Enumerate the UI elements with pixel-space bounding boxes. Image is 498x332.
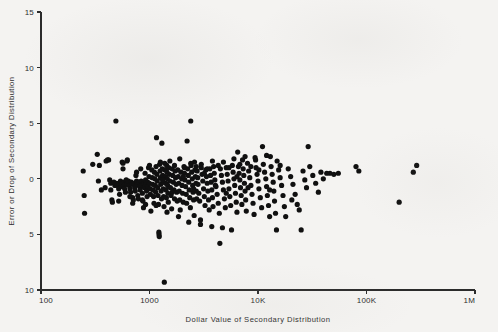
data-point [202,203,207,208]
data-point [96,178,101,183]
data-point [237,162,242,167]
data-point [127,194,132,199]
data-point [160,177,165,182]
data-point [181,174,186,179]
data-point [256,186,261,191]
data-point [254,172,259,177]
scatter-plot: 151050510100100010K100K1MDollar Value of… [0,0,498,332]
data-point [182,165,187,170]
data-point [261,162,266,167]
data-point [209,187,214,192]
data-point [280,193,285,198]
data-point [288,174,293,179]
data-point [138,166,143,171]
data-point [231,156,236,161]
data-point [316,190,321,195]
data-point [255,178,260,183]
data-point [205,166,210,171]
data-point [216,201,221,206]
data-point [90,162,95,167]
data-point [221,160,226,165]
data-point [310,173,315,178]
data-point [268,164,273,169]
data-point [397,200,402,205]
data-point [143,202,148,207]
data-point [108,187,113,192]
data-point [243,197,248,202]
y-tick-label: 10 [25,286,35,295]
data-point [219,173,224,178]
data-point [266,203,271,208]
data-point [116,198,121,203]
data-point [195,168,200,173]
data-point [313,181,318,186]
data-point [304,185,309,190]
data-point [117,192,122,197]
data-point [238,185,243,190]
data-point [178,207,183,212]
data-point [140,197,145,202]
data-point [241,166,246,171]
data-point [169,206,174,211]
data-point [262,170,267,175]
data-point [176,214,181,219]
data-point [210,204,215,209]
data-point [210,195,215,200]
data-point [191,186,196,191]
data-point [290,182,295,187]
data-point [336,171,341,176]
data-point [194,164,199,169]
data-point [166,200,171,205]
data-point [211,164,216,169]
data-point [225,178,230,183]
data-point [263,176,268,181]
data-point [356,168,361,173]
data-point [220,180,225,185]
data-point [231,170,236,175]
data-point [82,211,87,216]
data-point [300,168,305,173]
data-point [271,180,276,185]
data-point [267,214,272,219]
data-point [226,186,231,191]
data-point [331,172,336,177]
data-point [226,165,231,170]
data-point [278,175,283,180]
data-point [164,195,169,200]
x-tick-label: 10K [251,296,266,305]
y-tick-label: 15 [25,8,35,17]
data-point [125,157,130,162]
y-tick-label: 5 [29,119,34,128]
figure-canvas: 151050510100100010K100K1MDollar Value of… [0,0,498,332]
data-point [228,203,233,208]
data-point [213,183,218,188]
data-point [306,144,311,149]
data-point [217,241,222,246]
data-point [318,170,323,175]
data-point [274,227,279,232]
data-point [130,201,135,206]
data-point [158,160,163,165]
data-point [97,163,102,168]
data-point [212,171,217,176]
data-point [192,213,197,218]
data-point [229,227,234,232]
data-point [293,192,298,197]
data-point [225,172,230,177]
data-point [95,152,100,157]
data-point [234,210,239,215]
data-point [202,171,207,176]
data-point [103,185,108,190]
data-point [259,205,264,210]
data-point [353,164,358,169]
data-point [258,195,263,200]
data-point [110,200,115,205]
data-point [134,170,139,175]
data-point [153,203,158,208]
data-point [295,202,300,207]
data-point [307,164,312,169]
data-point [275,158,280,163]
data-point [302,177,307,182]
data-point [197,198,202,203]
data-point [81,168,86,173]
